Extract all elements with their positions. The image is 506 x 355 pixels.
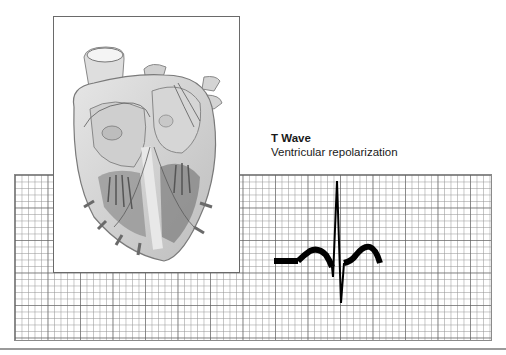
t-wave-label: T Wave Ventricular repolarization <box>271 131 398 159</box>
ecg-waveform-icon <box>260 175 390 310</box>
bottom-divider <box>0 348 506 350</box>
t-wave-title: T Wave <box>271 131 398 145</box>
heart-illustration-frame <box>53 16 240 273</box>
t-wave-description: Ventricular repolarization <box>271 145 398 159</box>
heart-illustration-icon <box>54 17 241 274</box>
